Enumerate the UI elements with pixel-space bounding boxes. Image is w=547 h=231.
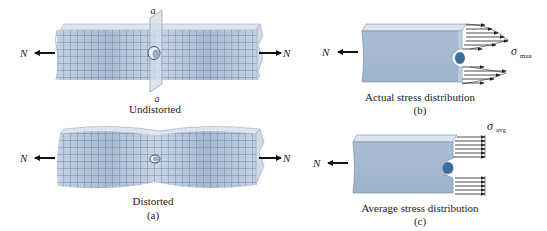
- panel-b-label: (b): [414, 104, 427, 117]
- force-label-left: N: [312, 157, 321, 169]
- hole-icon: [443, 162, 454, 174]
- panel-a-label: (a): [147, 209, 160, 222]
- undistorted-bar-group: [56, 10, 264, 92]
- force-label-left: N: [19, 47, 28, 59]
- panel-b-caption: Actual stress distribution: [365, 91, 475, 103]
- average-stress-arrows: [453, 135, 485, 196]
- distorted-bar-group: [50, 120, 265, 200]
- stress-subscript-avg: avg: [496, 126, 507, 134]
- stress-subscript-max: max: [520, 52, 533, 60]
- stress-symbol-avg: σ: [487, 119, 494, 133]
- force-label-left: N: [19, 152, 28, 164]
- panel-c-label: (c): [414, 215, 427, 228]
- force-label-right: N: [282, 152, 291, 164]
- force-label-left: N: [321, 46, 330, 58]
- stress-symbol-max: σ: [511, 44, 518, 58]
- section-label-top: a: [151, 5, 156, 16]
- force-label-right: N: [282, 47, 291, 59]
- average-stress-block: [353, 135, 457, 193]
- hole-icon: [455, 52, 465, 64]
- stress-concentration-figure: a a Undistorted N N N N Distorted (a): [0, 0, 547, 231]
- actual-stress-arrows: [462, 25, 508, 83]
- panel-c-caption: Average stress distribution: [361, 202, 479, 214]
- distorted-caption: Distorted: [133, 195, 174, 207]
- undistorted-caption: Undistorted: [129, 103, 181, 115]
